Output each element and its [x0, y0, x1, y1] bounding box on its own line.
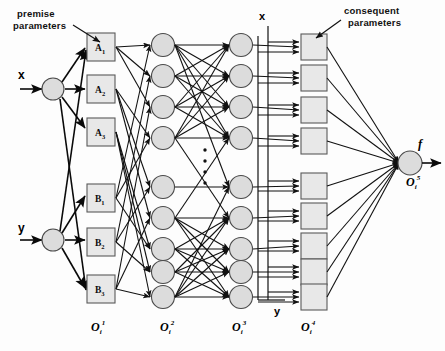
- input-node-y: [42, 229, 64, 251]
- input-node-x: [42, 78, 64, 100]
- consequent-wire: [253, 216, 299, 218]
- output-wire: [327, 110, 399, 163]
- layer3-node: [230, 127, 253, 150]
- layer4-node: [301, 97, 327, 123]
- consequent-wire: [253, 76, 299, 78]
- layer2-rule-nodes: [152, 34, 175, 309]
- layer2-node: [152, 261, 175, 284]
- consequent-pointer: [316, 20, 341, 38]
- layer3-node: [230, 96, 253, 119]
- norm-wire: [175, 45, 229, 187]
- output-wire: [327, 163, 399, 246]
- layer3-node: [230, 261, 253, 284]
- bus-label-y: y: [274, 305, 281, 317]
- x-to-membership-wires: [60, 48, 86, 290]
- layer4-consequent-nodes: [301, 34, 327, 310]
- layer3-node: [230, 238, 253, 261]
- layer2-node: [152, 127, 175, 150]
- xy-bus-lines: [258, 26, 299, 302]
- output-signal-label: f: [418, 137, 424, 151]
- layer3-node: [230, 286, 253, 309]
- input-x-group: [20, 78, 64, 100]
- output-node-label: Oi5: [406, 174, 421, 191]
- ellipsis-dot: [203, 181, 206, 184]
- output-wire: [327, 163, 399, 272]
- consequent-wire: [253, 246, 299, 249]
- layer2-to-layer3-wires: [175, 45, 229, 297]
- output-wire: [327, 141, 399, 163]
- premise-line2: parameters: [13, 20, 66, 31]
- consequent-wire: [253, 186, 299, 187]
- rule-wire: [116, 289, 150, 297]
- layer-label-3: Oi3: [232, 319, 247, 336]
- layer4-node: [301, 128, 327, 154]
- premise-line1: premise: [17, 8, 55, 19]
- rule-wire: [116, 89, 150, 138]
- annotation-consequent: consequent parameters: [316, 5, 401, 38]
- rule-wire: [116, 45, 150, 198]
- norm-wire: [175, 187, 229, 297]
- diagram-canvas: A1 A2 A3 B1 B2 B3: [0, 0, 445, 351]
- layer-label-2: Oi2: [160, 319, 175, 336]
- layer3-node: [230, 176, 253, 199]
- layer4-node: [301, 259, 327, 285]
- bus-label-x: x: [259, 10, 266, 22]
- layer2-node: [152, 176, 175, 199]
- rule-wire: [116, 132, 150, 249]
- layer-label-4: Oi4: [301, 319, 316, 336]
- input-label-y: y: [18, 221, 25, 235]
- layer2-node: [152, 286, 175, 309]
- rule-wire: [116, 198, 150, 249]
- rule-wire: [116, 89, 150, 187]
- ellipsis-dot: [203, 170, 206, 173]
- rule-wire: [116, 45, 150, 47]
- consequent-wire: [253, 107, 299, 110]
- layer4-node: [301, 173, 327, 199]
- output-node-group: [398, 151, 441, 175]
- output-wire: [327, 47, 399, 163]
- consequent-wire: [253, 138, 299, 141]
- layer2-node: [152, 96, 175, 119]
- ellipsis-dots: [203, 148, 206, 184]
- layer2-node: [152, 238, 175, 261]
- output-wire: [327, 163, 399, 216]
- layer4-node: [301, 284, 327, 310]
- layer4-node: [301, 233, 327, 259]
- consequent-line1: consequent: [344, 5, 400, 16]
- layer-output-labels: Oi1 Oi2 Oi3 Oi4: [91, 319, 316, 336]
- input-label-x: x: [18, 68, 25, 82]
- anfis-diagram: A1 A2 A3 B1 B2 B3: [0, 0, 445, 351]
- rule-wire: [116, 47, 150, 107]
- output-node: [398, 151, 422, 175]
- layer4-node: [301, 34, 327, 60]
- layer-label-1: Oi1: [91, 319, 105, 336]
- layer4-to-output-wires: [327, 47, 399, 297]
- layer4-node: [301, 65, 327, 91]
- layer1-to-layer2-wires: [116, 45, 150, 297]
- layer2-node: [152, 65, 175, 88]
- layer3-node: [230, 65, 253, 88]
- rule-wire: [116, 242, 150, 272]
- layer4-node: [301, 203, 327, 229]
- ellipsis-dot: [203, 159, 206, 162]
- layer1-membership-boxes: A1 A2 A3 B1 B2 B3: [87, 33, 115, 303]
- consequent-line2: parameters: [348, 17, 401, 28]
- rule-wire: [116, 47, 150, 76]
- layer3-node: [230, 34, 253, 57]
- layer3-normalization-nodes: [230, 34, 253, 309]
- layer2-node: [152, 34, 175, 57]
- layer3-node: [230, 207, 253, 230]
- layer2-node: [152, 207, 175, 230]
- rule-wire: [116, 218, 150, 289]
- consequent-wire: [253, 45, 299, 47]
- input-y-group: [20, 229, 64, 251]
- output-wire: [327, 78, 399, 163]
- ellipsis-dot: [203, 148, 206, 151]
